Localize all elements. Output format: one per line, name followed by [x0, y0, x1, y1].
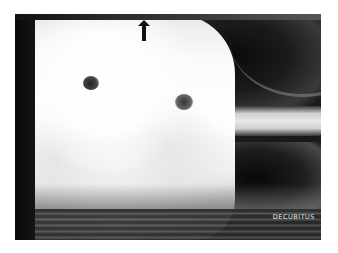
film-top-edge: [15, 14, 321, 20]
gas-lucency: [83, 76, 99, 90]
view-label: DECUBITUS: [273, 213, 315, 221]
xray-image: DECUBITUS: [15, 14, 321, 240]
arrow-icon: [142, 24, 146, 41]
contour-notch: [175, 94, 193, 110]
